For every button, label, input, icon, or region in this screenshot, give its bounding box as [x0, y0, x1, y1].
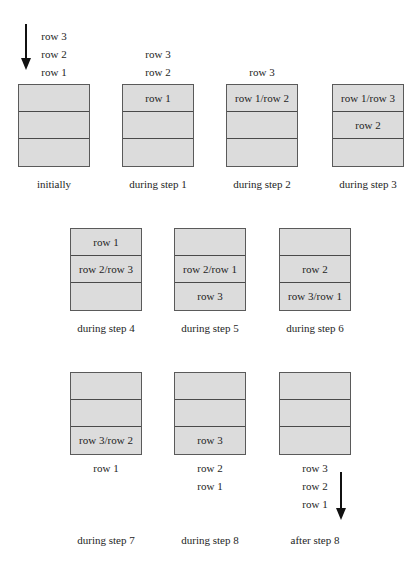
row-label: row 2 — [174, 459, 246, 477]
buffer-cell: row 1/row 3 — [333, 85, 403, 112]
row-label: row 1 — [70, 459, 142, 477]
panel-caption: during step 2 — [226, 178, 298, 190]
buffer-box — [18, 84, 90, 167]
panel-caption: during step 5 — [174, 322, 246, 334]
buffer-cell: row 3 — [175, 283, 245, 310]
buffer-cell — [280, 229, 350, 256]
row-label: row 2 — [122, 63, 194, 81]
buffer-cell — [280, 400, 350, 427]
buffer-cell — [19, 112, 89, 139]
buffer-cell — [227, 112, 297, 139]
buffer-cell: row 1/row 2 — [227, 85, 297, 112]
buffer-box: row 3 — [174, 372, 246, 455]
arrow-down-icon — [335, 470, 347, 522]
buffer-cell — [71, 373, 141, 400]
incoming-rows: row 3 — [226, 63, 298, 81]
buffer-cell: row 3/row 1 — [280, 283, 350, 310]
buffer-box: row 1 — [122, 84, 194, 167]
buffer-box: row 1 row 2/row 3 — [70, 228, 142, 311]
buffer-cell: row 2 — [280, 256, 350, 283]
buffer-cell: row 2/row 3 — [71, 256, 141, 283]
buffer-box: row 2/row 1 row 3 — [174, 228, 246, 311]
panel-caption: after step 8 — [279, 534, 351, 546]
buffer-cell — [280, 373, 350, 400]
buffer-box — [279, 372, 351, 455]
buffer-cell — [280, 427, 350, 454]
buffer-box: row 3/row 2 — [70, 372, 142, 455]
row-label: row 3 — [226, 63, 298, 81]
panel-caption: initially — [18, 178, 90, 190]
panel-caption: during step 6 — [279, 322, 351, 334]
buffer-cell: row 3 — [175, 427, 245, 454]
panel-caption: during step 8 — [174, 534, 246, 546]
buffer-cell — [175, 373, 245, 400]
outgoing-rows: row 1 — [70, 459, 142, 477]
panel-caption: during step 4 — [70, 322, 142, 334]
panel-caption: during step 1 — [122, 178, 194, 190]
buffer-box: row 1/row 2 — [226, 84, 298, 167]
buffer-cell: row 3/row 2 — [71, 427, 141, 454]
buffer-cell — [333, 139, 403, 166]
buffer-cell — [227, 139, 297, 166]
row-label: row 1 — [174, 477, 246, 495]
panel-caption: during step 3 — [332, 178, 404, 190]
buffer-box: row 2 row 3/row 1 — [279, 228, 351, 311]
buffer-cell: row 2/row 1 — [175, 256, 245, 283]
arrow-down-icon — [20, 22, 32, 72]
outgoing-rows: row 2 row 1 — [174, 459, 246, 495]
row-label: row 3 — [122, 45, 194, 63]
buffer-cell — [175, 400, 245, 427]
buffer-cell — [19, 139, 89, 166]
buffer-cell — [175, 229, 245, 256]
buffer-cell — [71, 283, 141, 310]
buffer-cell: row 1 — [123, 85, 193, 112]
buffer-cell: row 2 — [333, 112, 403, 139]
panel-caption: during step 7 — [70, 534, 142, 546]
buffer-box: row 1/row 3 row 2 — [332, 84, 404, 167]
buffer-cell — [19, 85, 89, 112]
incoming-rows: row 3 row 2 — [122, 45, 194, 81]
buffer-cell — [123, 112, 193, 139]
buffer-cell — [123, 139, 193, 166]
buffer-cell: row 1 — [71, 229, 141, 256]
buffer-cell — [71, 400, 141, 427]
